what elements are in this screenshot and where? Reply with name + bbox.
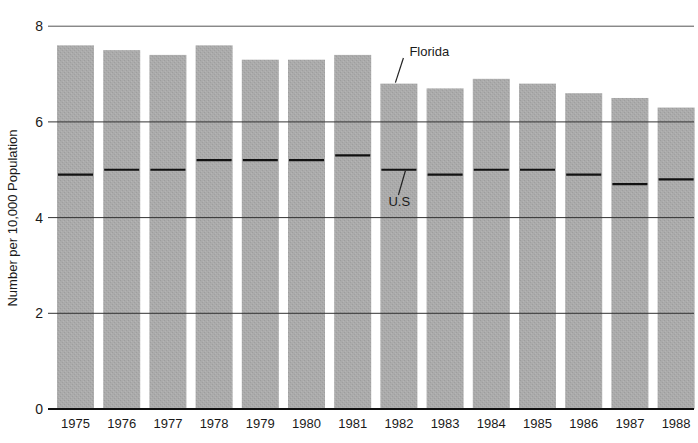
bar-florida-1987	[611, 98, 648, 409]
y-tick-label: 0	[35, 401, 43, 417]
x-tick-label: 1985	[523, 416, 552, 431]
bar-florida-1982	[380, 84, 417, 409]
y-tick-label: 8	[35, 18, 43, 34]
x-tick-label: 1981	[338, 416, 367, 431]
y-tick-label: 2	[35, 305, 43, 321]
bar-florida-1985	[519, 84, 556, 409]
bar-florida-1979	[242, 60, 279, 409]
bar-florida-1983	[427, 88, 464, 409]
florida-annotation: Florida	[409, 44, 450, 59]
bar-florida-1988	[658, 108, 695, 409]
bar-florida-1981	[334, 55, 371, 409]
florida-leader-line	[395, 58, 403, 83]
x-tick-label: 1979	[246, 416, 275, 431]
x-tick-label: 1977	[153, 416, 182, 431]
florida-bars	[57, 45, 695, 409]
bar-florida-1977	[149, 55, 186, 409]
x-tick-label: 1987	[615, 416, 644, 431]
x-tick-label: 1978	[200, 416, 229, 431]
bar-florida-1986	[565, 93, 602, 409]
x-tick-label: 1988	[662, 416, 691, 431]
x-tick-label: 1975	[61, 416, 90, 431]
x-tick-label: 1983	[431, 416, 460, 431]
y-tick-label: 4	[35, 210, 43, 226]
us-annotation: U.S	[388, 194, 410, 209]
x-tick-label: 1984	[477, 416, 506, 431]
bar-florida-1978	[196, 45, 233, 409]
y-axis-label: Number per 10,000 Population	[5, 129, 20, 306]
bar-florida-1984	[473, 79, 510, 409]
x-tick-label: 1980	[292, 416, 321, 431]
bar-florida-1980	[288, 60, 325, 409]
bar-florida-1976	[103, 50, 140, 409]
y-tick-label: 6	[35, 114, 43, 130]
x-tick-label: 1976	[107, 416, 136, 431]
bar-chart: 1975197619771978197919801981198219831984…	[0, 0, 698, 443]
x-tick-label: 1982	[384, 416, 413, 431]
x-tick-label: 1986	[569, 416, 598, 431]
bar-florida-1975	[57, 45, 94, 409]
